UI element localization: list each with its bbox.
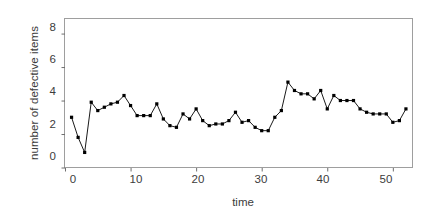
data-point [70,116,73,119]
data-point [326,107,329,110]
data-point [175,126,178,129]
data-point [280,109,283,112]
data-point [260,129,263,132]
data-point [378,112,381,115]
data-point [352,99,355,102]
data-point [254,126,257,129]
data-point [227,119,230,122]
data-point [240,121,243,124]
data-point [90,101,93,104]
data-point [345,99,348,102]
data-point [332,94,335,97]
data-point [234,111,237,114]
data-point [168,124,171,127]
data-point [313,97,316,100]
data-point [273,116,276,119]
data-line-defective-items [72,82,406,152]
data-point [188,117,191,120]
data-point [155,102,158,105]
data-point [214,122,217,125]
data-point [398,119,401,122]
data-point [208,124,211,127]
data-point [83,151,86,154]
data-point [122,94,125,97]
data-point [319,89,322,92]
chart-figure: number of defective items time 8 6 4 2 0… [0,0,433,223]
data-point [136,114,139,117]
data-point [129,104,132,107]
data-point [162,117,165,120]
data-point [96,109,99,112]
data-point [221,122,224,125]
data-point [247,119,250,122]
data-point [149,114,152,117]
data-point [109,102,112,105]
data-point [358,107,361,110]
data-point [339,99,342,102]
data-point [299,92,302,95]
data-point [306,92,309,95]
data-point [391,121,394,124]
data-point [77,136,80,139]
data-point [293,89,296,92]
plot-canvas [0,0,433,223]
data-point [267,129,270,132]
data-point [365,111,368,114]
data-point [404,107,407,110]
plot-frame [65,19,413,168]
data-point [116,101,119,104]
x-tick-marks [66,168,394,172]
data-point [142,114,145,117]
data-point [201,119,204,122]
data-point [372,112,375,115]
data-point [181,112,184,115]
data-point [195,107,198,110]
data-point [385,112,388,115]
data-point [103,106,106,109]
data-point [286,81,289,84]
